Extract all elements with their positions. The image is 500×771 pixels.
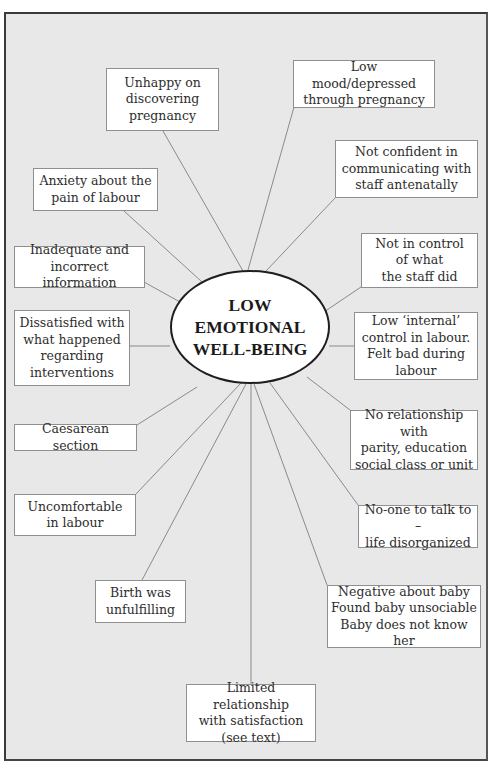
connector-unhappy xyxy=(163,131,243,271)
node-no-relationship-parity: No relationship with parity, education s… xyxy=(350,410,478,470)
node-uncomfortable-labour: Uncomfortable in labour xyxy=(14,494,136,536)
node-low-internal-control: Low ‘internal’ control in labour. Felt b… xyxy=(354,312,478,380)
connector-uncomfortable xyxy=(136,383,241,494)
node-negative-about-baby: Negative about baby Found baby unsociabl… xyxy=(327,585,481,648)
node-not-confident-communicating: Not confident in communicating with staf… xyxy=(335,140,478,198)
connector-no-relationship xyxy=(307,377,350,410)
connector-not-confident xyxy=(266,197,336,271)
node-dissatisfied-interventions: Dissatisfied with what happened regardin… xyxy=(14,310,130,386)
connector-no-one xyxy=(270,383,358,505)
connector-inadequate xyxy=(144,282,180,302)
connector-caesarean xyxy=(137,387,197,425)
node-inadequate-information: Inadequate and incorrect information xyxy=(14,246,145,288)
node-unhappy-discovering-pregnancy: Unhappy on discovering pregnancy xyxy=(106,68,219,131)
node-caesarean-section: Caesarean section xyxy=(14,424,137,451)
connector-birth-unfulfilling xyxy=(142,384,246,580)
connector-negative-baby xyxy=(254,384,327,585)
node-low-mood-depressed: Low mood/depressed through pregnancy xyxy=(293,60,435,108)
node-birth-unfulfilling: Birth was unfulfilling xyxy=(95,580,186,623)
connector-low-mood xyxy=(248,107,294,270)
diagram-canvas: LOW EMOTIONAL WELL-BEING Unhappy on disc… xyxy=(0,0,500,771)
node-anxiety-pain-labour: Anxiety about the pain of labour xyxy=(33,168,158,211)
node-no-one-to-talk-to: No-one to talk to – life disorganized xyxy=(358,505,478,548)
node-limited-relationship-satisfaction: Limited relationship with satisfaction (… xyxy=(186,684,316,742)
node-not-in-control-staff: Not in control of what the staff did xyxy=(361,233,478,288)
central-ellipse-low-emotional-well-being: LOW EMOTIONAL WELL-BEING xyxy=(170,270,330,384)
